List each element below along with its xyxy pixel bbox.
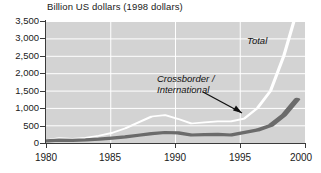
y-tick bbox=[40, 56, 45, 57]
y-axis-label-3500: 3,500 bbox=[1, 16, 39, 25]
y-tick bbox=[40, 21, 45, 22]
y-tick bbox=[40, 143, 45, 144]
y-axis-line bbox=[45, 20, 46, 144]
y-axis-label-0: 0 bbox=[1, 138, 39, 147]
x-tick bbox=[175, 143, 176, 148]
x-axis-label-1980: 1980 bbox=[26, 152, 66, 163]
y-axis-labels: 3,500 3,000 2,500 2,000 1,500 1,000 500 … bbox=[0, 0, 39, 173]
y-axis-label-2500: 2,500 bbox=[1, 51, 39, 60]
y-axis-label-1500: 1,500 bbox=[1, 86, 39, 95]
x-axis-label-2000: 2000 bbox=[281, 152, 321, 163]
crossborder-label-line2: International bbox=[157, 84, 215, 95]
x-axis-label-1995: 1995 bbox=[220, 152, 260, 163]
x-tick bbox=[110, 143, 111, 148]
y-axis-label-500: 500 bbox=[1, 121, 39, 130]
x-axis-label-1990: 1990 bbox=[155, 152, 195, 163]
y-tick bbox=[40, 91, 45, 92]
series-annotation-crossborder: Crossborder / International bbox=[157, 73, 215, 95]
x-tick bbox=[240, 143, 241, 148]
y-tick bbox=[40, 38, 45, 39]
crossborder-label-line1: Crossborder / bbox=[157, 73, 215, 84]
series-annotation-total: Total bbox=[247, 35, 267, 46]
y-tick bbox=[40, 126, 45, 127]
x-axis-label-1985: 1985 bbox=[90, 152, 130, 163]
x-tick bbox=[46, 143, 47, 148]
x-tick bbox=[305, 143, 306, 148]
annotation-arrow-icon bbox=[203, 92, 242, 113]
y-tick bbox=[40, 73, 45, 74]
y-axis-label-2000: 2,000 bbox=[1, 68, 39, 77]
y-tick bbox=[40, 108, 45, 109]
chart-title: Billion US dollars (1998 dollars) bbox=[47, 1, 183, 12]
y-axis-label-3000: 3,000 bbox=[1, 33, 39, 42]
chart-figure: Billion US dollars (1998 dollars) bbox=[0, 0, 321, 173]
y-axis-label-1000: 1,000 bbox=[1, 103, 39, 112]
